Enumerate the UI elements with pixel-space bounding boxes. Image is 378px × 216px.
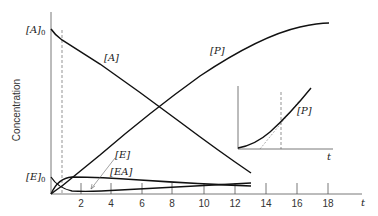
- tick-label: 12: [229, 198, 241, 209]
- tick-label: 10: [198, 198, 210, 209]
- inset-x-label: t: [327, 151, 332, 162]
- inset-chart: [P] t: [238, 86, 333, 162]
- tick-label: 16: [291, 198, 303, 209]
- tick-label: 18: [322, 198, 334, 209]
- tick-label: 8: [169, 198, 175, 209]
- x-axis-label: t: [361, 197, 366, 208]
- tick-label: 6: [139, 198, 145, 209]
- curve-e-label: [E]: [115, 149, 130, 160]
- curve-p: [51, 23, 329, 194]
- curve-p-label: [P]: [210, 45, 225, 56]
- curve-a-label: [A]: [104, 52, 119, 63]
- tick-label: 14: [260, 198, 272, 209]
- a0-label: [A]0: [26, 24, 46, 37]
- curve-ea-label: [EA]: [110, 166, 132, 177]
- x-tick-labels: 2 4 6 8 10 12 14 16 18: [78, 198, 334, 209]
- inset-curve-p-label: [P]: [297, 105, 312, 116]
- y-axis-label: Concentration: [11, 79, 22, 141]
- tick-label: 4: [108, 198, 114, 209]
- chart: 2 4 6 8 10 12 14 16 18 t Concentration […: [0, 0, 378, 216]
- tick-label: 2: [78, 198, 84, 209]
- inset-curve-p: [238, 88, 311, 148]
- x-ticks: [81, 183, 328, 194]
- e0-label: [E]0: [26, 171, 46, 184]
